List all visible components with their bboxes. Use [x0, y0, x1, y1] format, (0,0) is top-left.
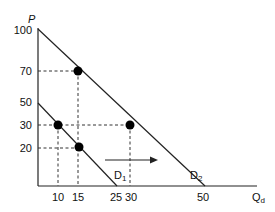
- d1-label-main: D: [114, 169, 122, 181]
- shift-arrow-icon: [105, 157, 158, 164]
- d2-label-main: D: [190, 169, 198, 181]
- y-tick-100: 100: [8, 25, 32, 36]
- point-15-70: [74, 67, 83, 76]
- point-10-30: [54, 121, 63, 130]
- demand-shift-chart: P 100 70 50 30 20 10 15 25 30 50 D1 D2 Q…: [0, 0, 275, 212]
- d2-label-sub: 2: [198, 174, 202, 183]
- x-tick-10: 10: [48, 192, 68, 203]
- x-tick-30: 30: [121, 192, 141, 203]
- y-tick-30: 30: [8, 120, 32, 131]
- demand-curve-d2: [38, 29, 205, 186]
- d1-label: D1: [114, 170, 126, 183]
- x-axis-label: Qd: [252, 192, 265, 205]
- point-15-20: [75, 143, 84, 152]
- y-tick-50: 50: [8, 97, 32, 108]
- x-tick-15: 15: [68, 192, 88, 203]
- x-axis-label-sub: d: [261, 196, 265, 205]
- chart-svg: [0, 0, 275, 212]
- y-tick-20: 20: [8, 143, 32, 154]
- point-30-30: [126, 121, 135, 130]
- x-axis-label-main: Q: [252, 191, 261, 203]
- x-tick-50: 50: [193, 192, 213, 203]
- d2-label: D2: [190, 170, 202, 183]
- d1-label-sub: 1: [122, 174, 126, 183]
- y-tick-70: 70: [8, 66, 32, 77]
